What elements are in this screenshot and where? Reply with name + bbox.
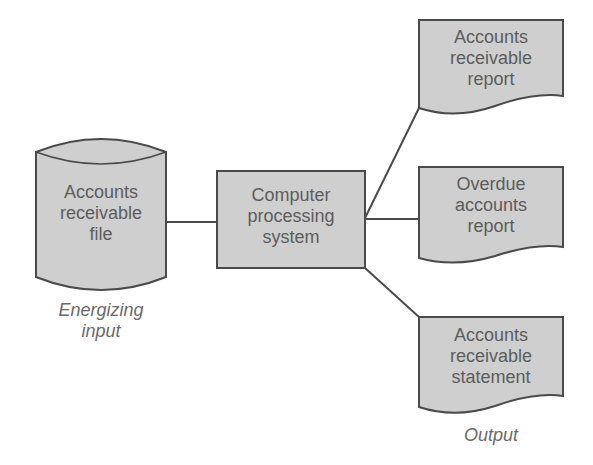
label-line: Overdue (419, 174, 563, 195)
label-line: Accounts (419, 27, 563, 48)
label-line: statement (419, 367, 563, 388)
caption-line: input (36, 321, 166, 342)
label-line: receivable (36, 203, 166, 224)
label-line: system (217, 227, 365, 248)
node-label-statement: Accounts receivable statement (419, 325, 563, 388)
caption-output: Output (419, 425, 563, 446)
label-line: file (36, 224, 166, 245)
edge-processor-to-report1 (365, 108, 419, 218)
label-line: report (419, 216, 563, 237)
node-label-report1: Accounts receivable report (419, 27, 563, 90)
edge-processor-to-statement (365, 268, 419, 317)
label-line: Accounts (419, 325, 563, 346)
node-label-input-file: Accounts receivable file (36, 182, 166, 245)
node-label-processor: Computer processing system (217, 185, 365, 248)
label-line: accounts (419, 195, 563, 216)
label-line: processing (217, 206, 365, 227)
label-line: Accounts (36, 182, 166, 203)
caption-energizing-input: Energizing input (36, 300, 166, 342)
caption-line: Energizing (36, 300, 166, 321)
label-line: receivable (419, 346, 563, 367)
label-line: report (419, 69, 563, 90)
label-line: Computer (217, 185, 365, 206)
node-label-report2: Overdue accounts report (419, 174, 563, 237)
label-line: receivable (419, 48, 563, 69)
caption-line: Output (419, 425, 563, 446)
